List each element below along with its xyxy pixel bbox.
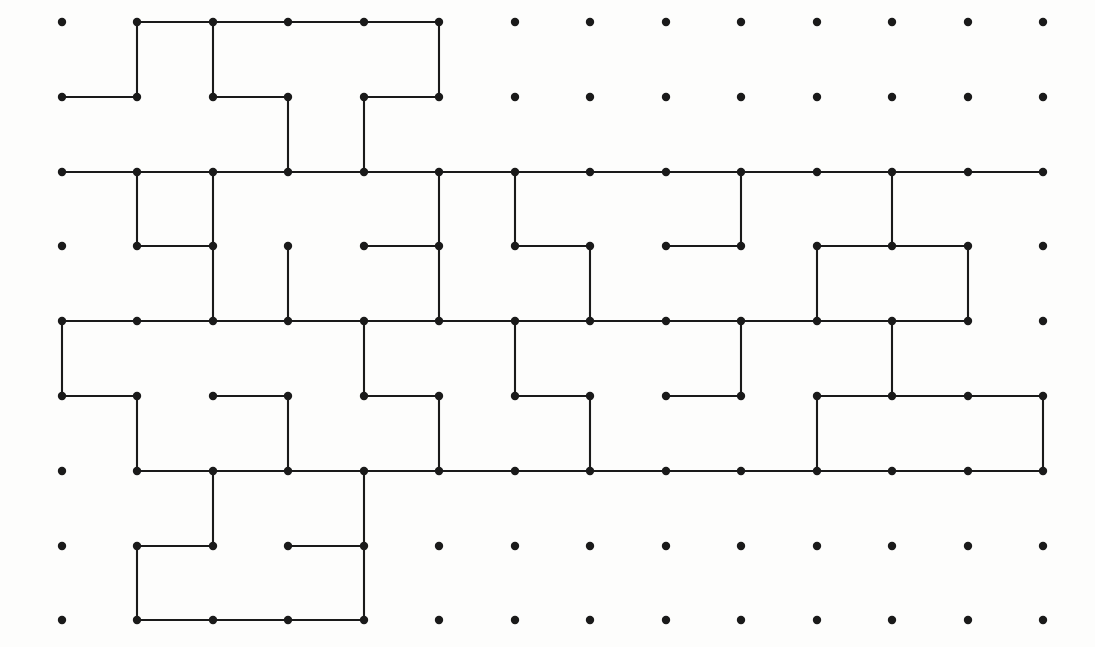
lattice-dot xyxy=(662,317,670,325)
lattice-dot xyxy=(1039,242,1047,250)
lattice-dot xyxy=(964,242,972,250)
lattice-dot xyxy=(586,467,594,475)
lattice-dot xyxy=(888,542,896,550)
lattice-dot xyxy=(737,467,745,475)
lattice-dot xyxy=(360,168,368,176)
lattice-dot xyxy=(813,616,821,624)
lattice-dot xyxy=(284,168,292,176)
lattice-dot xyxy=(813,168,821,176)
lattice-dot xyxy=(1039,467,1047,475)
lattice-dot xyxy=(964,93,972,101)
lattice-dot xyxy=(737,242,745,250)
lattice-dot xyxy=(888,168,896,176)
lattice-dot xyxy=(964,168,972,176)
lattice-dot xyxy=(813,542,821,550)
lattice-dot xyxy=(586,317,594,325)
lattice-dot xyxy=(964,542,972,550)
lattice-dot xyxy=(133,616,141,624)
lattice-dot xyxy=(511,168,519,176)
lattice-dot xyxy=(813,317,821,325)
lattice-dot xyxy=(360,93,368,101)
lattice-dot xyxy=(662,93,670,101)
lattice-dot xyxy=(58,542,66,550)
lattice-dot xyxy=(435,392,443,400)
lattice-dot xyxy=(133,392,141,400)
lattice-dot xyxy=(586,93,594,101)
lattice-dot xyxy=(1039,392,1047,400)
lattice-dot xyxy=(209,392,217,400)
lattice-dot xyxy=(964,616,972,624)
lattice-dot xyxy=(888,18,896,26)
lattice-dot xyxy=(209,93,217,101)
lattice-dot xyxy=(133,467,141,475)
lattice-dot xyxy=(360,317,368,325)
lattice-dot xyxy=(435,467,443,475)
lattice-dot xyxy=(360,242,368,250)
lattice-dot xyxy=(435,168,443,176)
lattice-dot xyxy=(737,168,745,176)
lattice-dot xyxy=(888,616,896,624)
lattice-dot xyxy=(737,616,745,624)
lattice-dot xyxy=(662,242,670,250)
lattice-dot xyxy=(284,542,292,550)
lattice-dot xyxy=(284,616,292,624)
lattice-dot xyxy=(209,542,217,550)
lattice-dot xyxy=(360,392,368,400)
lattice-dot xyxy=(586,542,594,550)
lattice-dot xyxy=(58,392,66,400)
lattice-dot xyxy=(1039,317,1047,325)
lattice-dot xyxy=(662,168,670,176)
lattice-dot xyxy=(58,18,66,26)
lattice-dot xyxy=(964,317,972,325)
lattice-dot xyxy=(586,616,594,624)
lattice-dot xyxy=(284,93,292,101)
lattice-dot xyxy=(888,392,896,400)
figure-background xyxy=(0,0,1095,647)
lattice-dot xyxy=(209,242,217,250)
lattice-dot xyxy=(888,317,896,325)
lattice-dot xyxy=(435,242,443,250)
lattice-dot xyxy=(435,18,443,26)
lattice-dot xyxy=(511,616,519,624)
lattice-dot xyxy=(511,317,519,325)
lattice-dot xyxy=(1039,616,1047,624)
lattice-dot xyxy=(737,392,745,400)
lattice-dot xyxy=(813,467,821,475)
lattice-dot xyxy=(511,18,519,26)
lattice-dot xyxy=(284,392,292,400)
lattice-dot xyxy=(435,616,443,624)
lattice-dot xyxy=(58,317,66,325)
lattice-dot xyxy=(435,317,443,325)
lattice-dot xyxy=(284,18,292,26)
lattice-dot xyxy=(209,616,217,624)
lattice-dot xyxy=(58,168,66,176)
lattice-dot xyxy=(662,467,670,475)
lattice-dot xyxy=(209,467,217,475)
lattice-dot xyxy=(662,542,670,550)
lattice-dot xyxy=(209,168,217,176)
lattice-dot xyxy=(1039,542,1047,550)
lattice-dot xyxy=(284,242,292,250)
lattice-dot xyxy=(964,392,972,400)
lattice-dot xyxy=(737,542,745,550)
lattice-dot xyxy=(209,317,217,325)
lattice-dot xyxy=(1039,93,1047,101)
lattice-dot xyxy=(737,18,745,26)
lattice-figure-canvas xyxy=(0,0,1095,647)
lattice-dot xyxy=(813,392,821,400)
lattice-dot xyxy=(586,18,594,26)
lattice-dot xyxy=(586,242,594,250)
lattice-dot xyxy=(58,467,66,475)
lattice-dot xyxy=(435,93,443,101)
lattice-dot xyxy=(133,168,141,176)
lattice-dot xyxy=(737,317,745,325)
lattice-dot xyxy=(58,242,66,250)
lattice-dot xyxy=(511,542,519,550)
lattice-dot xyxy=(360,542,368,550)
lattice-dot xyxy=(888,467,896,475)
lattice-dot xyxy=(284,317,292,325)
lattice-dot xyxy=(360,616,368,624)
lattice-dot xyxy=(813,93,821,101)
lattice-dot xyxy=(813,242,821,250)
lattice-dot xyxy=(284,467,292,475)
